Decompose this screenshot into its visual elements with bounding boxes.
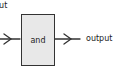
- and-gate-box: and: [21, 14, 55, 66]
- input-arrow-icon: [0, 34, 20, 44]
- gate-label: and: [30, 36, 45, 45]
- output-arrow-icon: [55, 34, 80, 44]
- output-label: output: [86, 35, 112, 43]
